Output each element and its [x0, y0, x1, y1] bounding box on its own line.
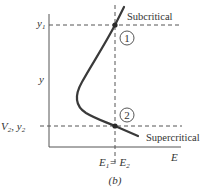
v2-y2-label: V2, y2 [1, 120, 26, 134]
point-2-marker [112, 123, 117, 128]
e1-equals-e2-label: E1= E2 [98, 156, 130, 170]
point-1-badge: 1 [120, 31, 134, 45]
subcritical-label: Subcritical [127, 11, 173, 22]
y-axis-label: y [38, 73, 44, 85]
supercritical-label: Supercritical [146, 132, 200, 143]
y1-label: y1 [36, 17, 45, 31]
point-2-label: 2 [124, 109, 130, 121]
point-2-badge: 2 [120, 108, 134, 122]
specific-energy-diagram: 1 2 Subcritical Supercritical y1 y V2, y… [0, 0, 204, 192]
figure-caption: (b) [109, 174, 122, 187]
point-1-marker [112, 22, 117, 27]
x-axis-label: E [170, 151, 178, 163]
point-1-label: 1 [124, 32, 130, 44]
